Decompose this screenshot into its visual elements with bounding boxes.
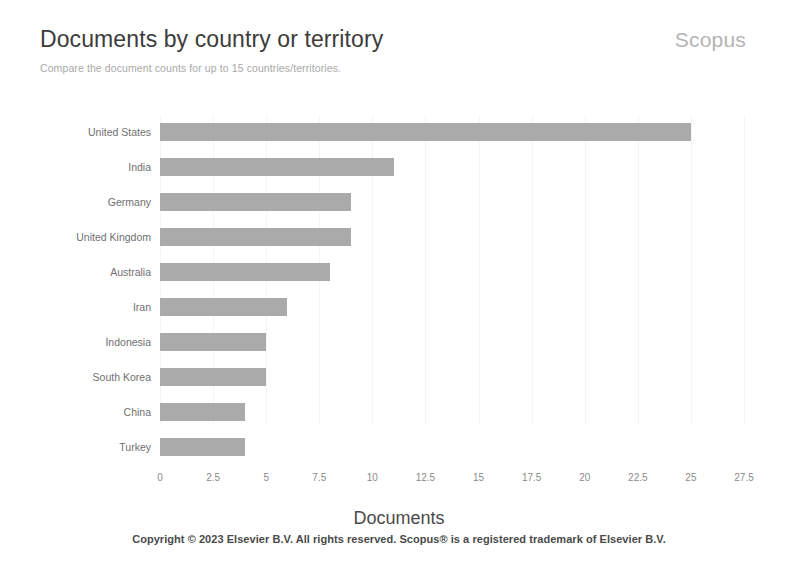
x-tick-label: 25 (685, 472, 696, 483)
bar[interactable] (160, 158, 394, 176)
gridline (744, 115, 745, 425)
bar-row[interactable]: United States (160, 115, 744, 150)
bar[interactable] (160, 228, 351, 246)
bar-chart: United StatesIndiaGermanyUnited KingdomA… (0, 110, 798, 500)
x-tick-label: 22.5 (628, 472, 647, 483)
bar-row[interactable]: China (160, 395, 744, 430)
x-tick-label: 17.5 (522, 472, 541, 483)
category-label: Iran (133, 298, 151, 316)
bar-row[interactable]: Iran (160, 290, 744, 325)
bar[interactable] (160, 193, 351, 211)
category-label: China (124, 403, 151, 421)
copyright-footer: Copyright © 2023 Elsevier B.V. All right… (0, 533, 798, 545)
category-label: South Korea (93, 368, 151, 386)
category-label: Indonesia (105, 333, 151, 351)
bar-row[interactable]: Turkey (160, 430, 744, 465)
category-label: Germany (108, 193, 151, 211)
scopus-logo: Scopus (675, 28, 746, 52)
x-tick-label: 0 (157, 472, 163, 483)
bar[interactable] (160, 333, 266, 351)
bar-row[interactable]: Indonesia (160, 325, 744, 360)
x-tick-label: 7.5 (312, 472, 326, 483)
category-label: Turkey (119, 438, 151, 456)
category-label: Australia (110, 263, 151, 281)
category-label: United States (88, 123, 151, 141)
page-subtitle: Compare the document counts for up to 15… (40, 62, 341, 74)
x-tick-label: 12.5 (416, 472, 435, 483)
bar[interactable] (160, 263, 330, 281)
x-tick-label: 15 (473, 472, 484, 483)
bar-row[interactable]: Australia (160, 255, 744, 290)
bar[interactable] (160, 368, 266, 386)
bar[interactable] (160, 438, 245, 456)
x-tick-label: 10 (367, 472, 378, 483)
bar-row[interactable]: South Korea (160, 360, 744, 395)
x-tick-label: 27.5 (734, 472, 753, 483)
chart-header: Documents by country or territory Compar… (0, 0, 798, 100)
bar[interactable] (160, 298, 287, 316)
bar-row[interactable]: United Kingdom (160, 220, 744, 255)
x-tick-label: 5 (263, 472, 269, 483)
page-title: Documents by country or territory (40, 26, 383, 53)
chart-page: Documents by country or territory Compar… (0, 0, 798, 580)
bar[interactable] (160, 123, 691, 141)
x-axis-title: Documents (0, 508, 798, 529)
bar-row[interactable]: Germany (160, 185, 744, 220)
bar-row[interactable]: India (160, 150, 744, 185)
x-tick-label: 20 (579, 472, 590, 483)
bar[interactable] (160, 403, 245, 421)
category-label: India (128, 158, 151, 176)
plot-area: United StatesIndiaGermanyUnited KingdomA… (160, 115, 744, 480)
category-label: United Kingdom (76, 228, 151, 246)
x-axis-line (160, 465, 744, 466)
x-tick-label: 2.5 (206, 472, 220, 483)
